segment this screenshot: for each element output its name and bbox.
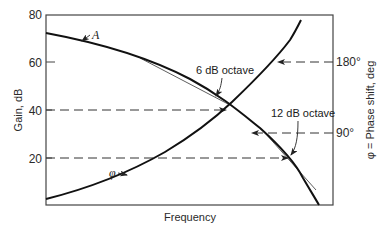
y-axis-title: Gain, dB — [12, 89, 24, 132]
gain-curve-a — [46, 33, 319, 205]
y-tick-60: 60 — [29, 56, 43, 70]
y-tick-20: 20 — [29, 152, 43, 166]
y2-axis-title: φ = Phase shift, deg — [364, 61, 376, 160]
x-axis-title: Frequency — [164, 211, 216, 223]
annotation-12db-octave: 12 dB octave — [271, 107, 335, 119]
y-tick-80: 80 — [29, 8, 43, 22]
curve-a-pointer — [82, 35, 90, 41]
y-tick-40: 40 — [29, 104, 43, 118]
y2-tick-90: 90° — [336, 126, 354, 140]
tangent-12db — [265, 133, 316, 190]
curve-label-phi: φ — [109, 166, 116, 180]
curve-label-a: A — [91, 28, 100, 42]
bode-diagram: 80 60 40 20 Gain, dB 180° 90° φ = Phase … — [0, 0, 382, 230]
annotation-6db-pointer — [216, 78, 222, 96]
y2-tick-180: 180° — [336, 55, 361, 69]
annotation-12db-pointer — [291, 121, 298, 155]
annotation-6db-octave: 6 dB octave — [196, 64, 254, 76]
